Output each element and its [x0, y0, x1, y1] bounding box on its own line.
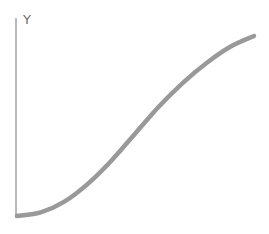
y-axis-label: Y — [23, 13, 31, 26]
chart-canvas — [0, 0, 269, 234]
data-line — [17, 36, 254, 216]
chart: Y — [0, 0, 269, 234]
